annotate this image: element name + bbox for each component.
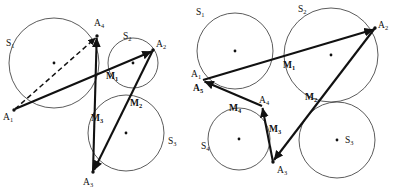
center-dot-s4-right [238, 138, 241, 141]
segment-a2-a3-right [274, 28, 375, 160]
center-dot-s3-left [125, 132, 128, 135]
label-a2-left: A2 [156, 39, 166, 50]
label-a3-right: A3 [277, 165, 287, 176]
label-a1-left: A1 [3, 112, 13, 123]
label-m3-left: M3 [91, 113, 103, 124]
label-s2-right: S2 [298, 4, 307, 15]
segment-a1-a2-right [203, 30, 374, 81]
diagram-canvas: S1 S2 S3 A1 A2 A3 A4 M1 [0, 0, 394, 192]
segment-a3-a4-left [93, 38, 97, 172]
label-a5-right: A5 [193, 83, 203, 94]
geometry-figure: S1 S2 S3 A1 A2 A3 A4 M1 [0, 0, 394, 192]
segment-a1-a4-dashed-left [15, 38, 96, 109]
label-m2-left: M2 [130, 98, 142, 109]
vertex-a3-right [271, 160, 274, 163]
right-panel: S1 S2 S3 S4 A1 A5 A2 A3 [191, 4, 388, 178]
center-dot-s1-right [234, 50, 237, 53]
label-s2-left: S2 [123, 31, 132, 42]
label-m3-right: M3 [269, 124, 281, 135]
label-m1-right: M1 [283, 60, 295, 71]
vertex-a2-right [373, 26, 376, 29]
vertex-a1-left [12, 108, 15, 111]
center-dot-s3-right [336, 139, 339, 142]
vertex-a3-left [91, 170, 94, 173]
label-s1-right: S1 [196, 7, 205, 18]
label-s3-left: S3 [168, 136, 177, 147]
label-m1-left: M1 [106, 71, 118, 82]
label-m4-right: M4 [229, 103, 242, 114]
label-a4-right: A4 [259, 95, 270, 106]
label-m2-right: M2 [305, 92, 317, 103]
center-dot-s2-left [132, 62, 135, 65]
label-a1-right: A1 [191, 69, 201, 80]
center-dot-s2-right [330, 54, 333, 57]
label-a4-left: A4 [94, 18, 105, 29]
left-panel: S1 S2 S3 A1 A2 A3 A4 M1 [3, 18, 177, 188]
center-dot-s1-left [53, 62, 56, 65]
label-s4-right: S4 [201, 141, 210, 152]
vertex-a2-left [151, 48, 154, 51]
label-a2-right: A2 [378, 20, 388, 31]
label-s3-right: S3 [345, 135, 354, 146]
segment-a3-a4-right [263, 108, 274, 162]
segment-a2-a3-left [94, 50, 153, 170]
vertex-a4-left [95, 34, 98, 37]
label-s1-left: S1 [6, 38, 15, 49]
label-a3-left: A3 [83, 177, 93, 188]
